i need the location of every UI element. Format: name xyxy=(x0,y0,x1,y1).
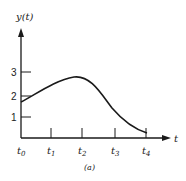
x-tick-labels: t0 t1 t2 t3 t4 xyxy=(17,145,151,158)
svg-text:t2: t2 xyxy=(78,145,87,158)
x-axis-label: t xyxy=(174,133,179,144)
y-tick-label-3: 3 xyxy=(11,67,17,78)
y-tick-label-2: 2 xyxy=(11,91,17,102)
svg-text:t0: t0 xyxy=(17,145,26,158)
y-ticks xyxy=(21,72,31,117)
x-axis-arrow-icon xyxy=(162,135,171,141)
signal-curve xyxy=(21,77,147,133)
y-tick-label-1: 1 xyxy=(11,112,17,123)
figure-caption: (a) xyxy=(84,163,95,172)
svg-text:t1: t1 xyxy=(47,145,56,158)
svg-text:t3: t3 xyxy=(111,145,120,158)
y-axis-label: y(t) xyxy=(15,11,34,22)
signal-plot: y(t) t 3 2 1 t0 t1 t2 t3 t4 (a) xyxy=(0,0,186,181)
y-axis-arrow-icon xyxy=(18,28,24,37)
x-ticks xyxy=(51,128,146,138)
svg-text:t4: t4 xyxy=(142,145,151,158)
